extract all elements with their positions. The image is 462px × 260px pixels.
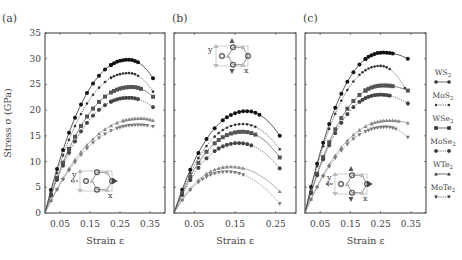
data-point-marker <box>345 143 349 147</box>
data-point-marker <box>242 123 245 126</box>
data-point-marker <box>188 175 192 179</box>
data-point-marker <box>136 60 140 64</box>
data-point-marker <box>116 74 119 77</box>
data-point-marker <box>152 90 155 93</box>
data-point-marker <box>151 76 155 80</box>
data-point-marker <box>339 92 343 96</box>
data-point-marker <box>351 99 355 103</box>
x-axis-title: Strain ε <box>347 235 385 246</box>
x-axis-label-inset: x <box>363 194 368 203</box>
data-point-marker <box>225 133 229 137</box>
data-point-marker <box>394 127 398 131</box>
data-point-marker <box>196 151 200 155</box>
data-point-marker <box>373 127 377 131</box>
chart-panel-a: (a)051015202530350.050.150.250.35Strain … <box>2 12 165 246</box>
data-point-marker <box>73 161 77 165</box>
data-point-marker <box>253 111 257 115</box>
data-point-marker <box>379 126 383 130</box>
data-point-marker <box>376 65 379 68</box>
data-point-marker <box>406 102 410 106</box>
data-point-marker <box>225 115 229 119</box>
x-tick-label: 0.05 <box>310 219 330 229</box>
data-point-marker <box>85 121 89 125</box>
x-tick-label: 0.15 <box>225 219 245 229</box>
series-MoS2 <box>45 72 154 213</box>
data-point-marker <box>62 154 65 157</box>
data-point-marker <box>79 124 83 128</box>
data-point-marker <box>237 110 241 114</box>
data-point-marker <box>352 80 355 83</box>
data-point-marker <box>226 126 229 129</box>
data-point-marker <box>205 137 209 141</box>
data-point-marker <box>253 133 257 137</box>
data-point-marker <box>238 123 241 126</box>
data-point-marker <box>434 149 438 152</box>
legend-item-ws2: WS2 <box>434 68 451 84</box>
data-point-marker <box>447 80 451 84</box>
stress-strain-figure: (a)051015202530350.050.150.250.35Strain … <box>0 0 462 260</box>
lattice-inset-icon: yx <box>207 38 250 75</box>
y-tick-label: 35 <box>30 28 42 38</box>
data-point-marker <box>103 67 107 71</box>
x-axis-label-inset: x <box>108 191 113 200</box>
data-point-marker <box>249 131 253 135</box>
data-point-marker <box>249 143 253 147</box>
data-point-marker <box>217 132 220 135</box>
data-point-marker <box>245 142 249 146</box>
data-point-marker <box>205 145 208 148</box>
x-tick-label: 0.05 <box>184 219 204 229</box>
panel-label: (b) <box>172 12 188 25</box>
data-point-marker <box>225 143 229 147</box>
series-MoTe2 <box>305 126 410 213</box>
data-point-marker <box>104 81 107 84</box>
data-point-marker <box>229 113 233 117</box>
data-point-marker <box>434 196 438 199</box>
data-point-marker <box>67 131 71 135</box>
data-point-marker <box>434 126 438 130</box>
data-point-marker <box>196 161 200 165</box>
data-point-marker <box>357 133 361 137</box>
data-point-marker <box>406 136 410 140</box>
data-point-marker <box>364 130 368 134</box>
data-point-marker <box>229 132 233 136</box>
data-point-marker <box>339 149 343 153</box>
y-tick-label: 25 <box>30 79 42 89</box>
data-point-marker <box>121 125 125 129</box>
data-point-marker <box>209 170 213 174</box>
data-point-marker <box>382 65 385 68</box>
legend-item-mose2: MoSe2 <box>430 137 455 153</box>
data-point-marker <box>85 91 89 95</box>
data-point-marker <box>361 71 364 74</box>
data-point-marker <box>364 69 367 72</box>
data-point-marker <box>447 149 451 152</box>
legend: WS2MoS2WSe2MoSe2WTe2MoTe2 <box>430 68 455 199</box>
x-tick-label: 0.25 <box>110 219 130 229</box>
data-point-marker <box>91 107 95 111</box>
lattice-inset-icon: yx <box>71 169 118 200</box>
data-point-marker <box>125 72 128 75</box>
x-tick-label: 0.25 <box>266 219 286 229</box>
data-point-marker <box>110 77 113 80</box>
data-point-marker <box>345 80 349 84</box>
data-point-marker <box>73 116 77 120</box>
data-point-marker <box>134 73 137 76</box>
data-point-marker <box>339 116 343 120</box>
y-tick-label: 20 <box>30 105 42 115</box>
data-point-marker <box>278 155 282 159</box>
data-point-marker <box>221 118 225 122</box>
data-point-marker <box>373 65 376 68</box>
series-WS2 <box>174 109 282 213</box>
data-point-marker <box>406 89 410 93</box>
data-point-marker <box>79 102 83 106</box>
data-point-marker <box>245 109 249 113</box>
data-point-marker <box>91 141 95 145</box>
data-point-marker <box>340 100 343 103</box>
data-point-marker <box>357 93 361 97</box>
x-tick-label: 0.35 <box>140 219 160 229</box>
legend-item-mos2: MoS2 <box>433 91 454 106</box>
data-point-marker <box>406 57 410 61</box>
data-point-marker <box>56 171 59 174</box>
chart-panel-b: (b)0.050.150.25Strain εyx <box>172 12 296 246</box>
data-point-marker <box>233 130 237 134</box>
y-axis-label-inset: y <box>71 170 77 179</box>
